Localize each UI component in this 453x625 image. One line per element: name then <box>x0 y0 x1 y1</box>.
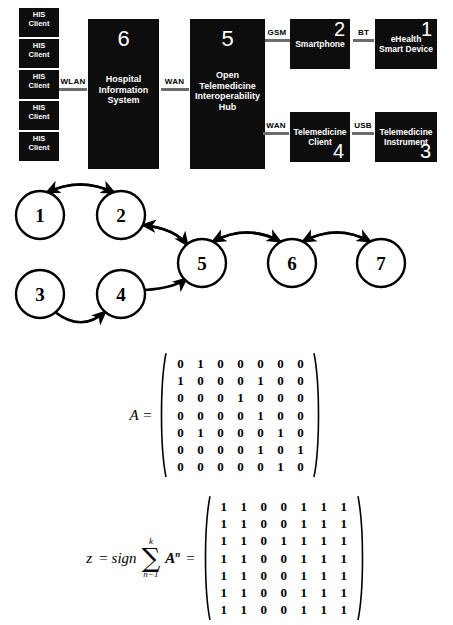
equation-z-cell: 1 <box>214 584 234 601</box>
equation-z-cell: 1 <box>334 498 354 515</box>
matrix-a-cell: 0 <box>230 458 250 475</box>
matrix-a-cell: 0 <box>270 406 290 423</box>
matrix-a-cell: 0 <box>210 372 230 389</box>
matrix-a-cell: 1 <box>250 406 270 423</box>
equation-z-cell: 0 <box>254 515 274 532</box>
equation-z-cell: 1 <box>314 532 334 549</box>
matrix-a-cell: 0 <box>250 458 270 475</box>
equation-z-cell: 1 <box>234 498 254 515</box>
matrix-a-cell: 0 <box>230 355 250 372</box>
matrix-a-cell: 0 <box>190 389 210 406</box>
matrix-a-cell: 1 <box>250 441 270 458</box>
matrix-a-cell: 0 <box>210 458 230 475</box>
telemedicine-instrument-line1: Telemedicine <box>379 127 432 137</box>
matrix-a-bracketed: 0100000100010000010000000100010001000001… <box>157 352 323 478</box>
equation-z-cell: 1 <box>214 567 234 584</box>
matrix-a-cell: 0 <box>230 406 250 423</box>
his-block-line1: Hospital <box>106 74 142 85</box>
matrix-a-cell: 0 <box>230 441 250 458</box>
matrix-a-cell: 1 <box>250 372 270 389</box>
edge-3-to-4 <box>55 311 106 322</box>
matrix-z-right-paren <box>356 495 367 621</box>
matrix-z-grid: 1100111110011111011111100111110011111001… <box>212 495 356 621</box>
z-variable: z <box>86 550 92 567</box>
matrix-a-cell: 0 <box>170 355 190 372</box>
link-wan-hub-bar <box>161 88 189 91</box>
equation-z-cell: 0 <box>274 549 294 566</box>
equation-z-cell: 0 <box>254 532 274 549</box>
link-wlan-bar <box>59 88 87 91</box>
equation-z-cell: 0 <box>254 567 274 584</box>
equation-z-cell: 1 <box>234 515 254 532</box>
matrix-a-cell: 1 <box>270 424 290 441</box>
equation-z-cell: 0 <box>274 601 294 618</box>
matrix-a-cell: 0 <box>170 441 190 458</box>
matrix-a-cell: 0 <box>290 406 310 423</box>
matrix-a-cell: 0 <box>210 355 230 372</box>
ehealth-smart-device-block: 1 eHealth Smart Device <box>375 19 437 69</box>
z-equation-figure: z = sign k ∑ n−1 An = 110011111001111101… <box>0 493 453 623</box>
edge-2-to-5 <box>142 225 188 246</box>
equation-z-cell: 0 <box>274 584 294 601</box>
matrix-a-cell: 0 <box>190 458 210 475</box>
link-usb: USB <box>350 121 376 135</box>
ehealth-block-line1: eHealth <box>391 34 422 44</box>
his-block-number: 6 <box>117 26 129 52</box>
hub-block-line1: Open <box>216 70 239 81</box>
directed-graph-diagram: 1 2 3 4 5 6 7 <box>0 178 453 333</box>
ehealth-block-number: 1 <box>421 19 432 42</box>
matrix-a-cell: 0 <box>170 389 190 406</box>
summation-operator: k ∑ n−1 <box>142 537 161 579</box>
equation-z-cell: 1 <box>334 601 354 618</box>
equation-z-cell: 1 <box>334 549 354 566</box>
equation-z-cell: 1 <box>214 532 234 549</box>
edge-4-to-5 <box>145 278 187 290</box>
matrix-a-cell: 0 <box>270 389 290 406</box>
link-wlan: WLAN <box>57 77 89 91</box>
equation-z-cell: 0 <box>274 567 294 584</box>
equation-z-cell: 1 <box>314 584 334 601</box>
hub-block-number: 5 <box>221 26 233 52</box>
matrix-z-bracketed: 1100111110011111011111100111110011111001… <box>201 495 367 621</box>
adjacency-matrix-figure: A = 010000010001000001000000010001000100… <box>0 340 453 490</box>
his-client-line2: Client <box>29 81 50 90</box>
his-client-line2: Client <box>29 112 50 121</box>
his-block-line2: Information <box>99 85 149 96</box>
matrix-a-cell: 1 <box>270 458 290 475</box>
matrix-a-cell: 1 <box>190 355 210 372</box>
graph-node-7-label: 7 <box>376 253 386 274</box>
link-gsm: GSM <box>262 28 292 42</box>
his-client-line2: Client <box>29 19 50 28</box>
equation-z-cell: 0 <box>254 601 274 618</box>
equation-z-cell: 1 <box>234 601 254 618</box>
telemedicine-client-block: 4 Telemedicine Client <box>290 112 350 162</box>
equation-z-cell: 1 <box>234 532 254 549</box>
matrix-a-cell: 1 <box>170 372 190 389</box>
his-client-block: HIS Client <box>19 101 59 130</box>
hub-block-line4: Hub <box>219 102 237 113</box>
matrix-a-label: A = <box>130 407 153 424</box>
equation-z-cell: 1 <box>214 601 234 618</box>
telemedicine-client-line2: Client <box>308 137 332 147</box>
link-gsm-label: GSM <box>262 28 292 37</box>
equation-z-cell: 1 <box>214 549 234 566</box>
matrix-a-cell: 0 <box>230 424 250 441</box>
matrix-a-cell: 0 <box>290 424 310 441</box>
matrix-a-cell: 0 <box>210 424 230 441</box>
matrix-a-cell: 0 <box>290 372 310 389</box>
matrix-a-cell: 1 <box>230 389 250 406</box>
equation-z-cell: 1 <box>274 532 294 549</box>
his-client-line1: HIS <box>33 134 46 143</box>
matrix-a-cell: 0 <box>270 372 290 389</box>
matrix-a-cell: 0 <box>210 406 230 423</box>
link-usb-bar <box>352 132 374 135</box>
his-client-line1: HIS <box>33 41 46 50</box>
equation-z-cell: 1 <box>314 549 334 566</box>
matrix-a-cell: 1 <box>290 441 310 458</box>
sign-function-label: sign <box>112 550 137 567</box>
matrix-a-cell: 0 <box>250 424 270 441</box>
matrix-a-cell: 0 <box>210 441 230 458</box>
matrix-a-cell: 0 <box>290 458 310 475</box>
edge-7-to-6 <box>302 233 371 243</box>
matrix-a-cell: 0 <box>230 372 250 389</box>
